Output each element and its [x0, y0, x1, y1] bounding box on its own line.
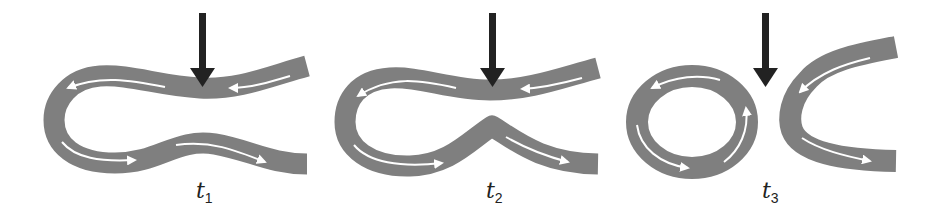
- pointer-arrow: [753, 13, 778, 87]
- pinch-off-diagram: [0, 0, 948, 216]
- panel-t1: [54, 13, 307, 164]
- channel-c-shape: [790, 47, 896, 161]
- pointer-arrow: [190, 13, 215, 87]
- panel-t2: [345, 13, 598, 166]
- label-t1: t1: [196, 178, 213, 206]
- pointer-arrow: [480, 13, 505, 87]
- panel-t3: [637, 13, 896, 168]
- label-t3: t3: [762, 178, 779, 206]
- label-t2: t2: [486, 178, 503, 206]
